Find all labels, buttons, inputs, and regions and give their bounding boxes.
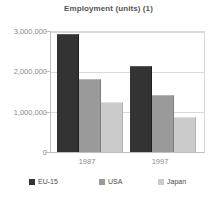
- bar-eu15-1997: [130, 66, 152, 152]
- bar-eu15-1987: [57, 34, 79, 152]
- bar-usa-1987: [79, 79, 101, 152]
- legend-item-japan: Japan: [158, 178, 186, 185]
- legend-item-eu15: EU-15: [29, 178, 58, 185]
- employment-bar-chart: Employment (units) (1) 3,000,000 2,000,0…: [0, 0, 217, 198]
- bar-japan-1997: [174, 117, 196, 152]
- x-tick-label-1987: 1987: [50, 157, 124, 166]
- y-tick-label-0: 0: [0, 148, 47, 157]
- legend-swatch-usa-icon: [99, 179, 105, 185]
- bar-usa-1997: [152, 95, 174, 152]
- chart-title: Employment (units) (1): [0, 4, 217, 13]
- plot-area: [50, 31, 205, 153]
- legend-item-usa: USA: [99, 178, 122, 185]
- legend-label-japan: Japan: [167, 178, 186, 185]
- legend-swatch-japan-icon: [158, 179, 164, 185]
- legend-swatch-eu15-icon: [29, 179, 35, 185]
- x-tick-label-1997: 1997: [123, 157, 197, 166]
- y-tick-label-3000000: 3,000,000: [0, 27, 47, 36]
- y-tick-label-2000000: 2,000,000: [0, 67, 47, 76]
- bar-japan-1987: [101, 102, 123, 152]
- gridline-3000000: [51, 32, 204, 33]
- legend-label-usa: USA: [108, 178, 122, 185]
- legend-label-eu15: EU-15: [38, 178, 58, 185]
- chart-legend: EU-15 USA Japan: [0, 178, 217, 192]
- y-tick-label-1000000: 1,000,000: [0, 108, 47, 117]
